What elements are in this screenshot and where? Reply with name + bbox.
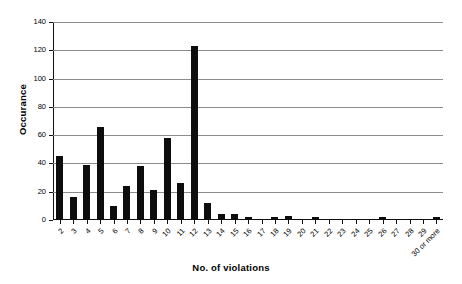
bar [83, 165, 90, 220]
bar-slot [66, 22, 79, 220]
x-tick-label: 11 [175, 227, 186, 238]
x-tick-slot [430, 220, 443, 224]
bar-slot [107, 22, 120, 220]
x-tick-slot [336, 220, 349, 224]
x-tick-mark [410, 220, 411, 224]
bar [150, 190, 157, 220]
x-tick-label: 14 [215, 227, 226, 238]
x-tick-mark [221, 220, 222, 224]
y-tick-label: 20 [6, 188, 46, 196]
bar [110, 206, 117, 220]
x-tick-mark [356, 220, 357, 224]
x-tick-label: 18 [269, 227, 280, 238]
bar-slot [430, 22, 443, 220]
x-tick-slot [255, 220, 268, 224]
x-tick-slot [282, 220, 295, 224]
bar [191, 46, 198, 220]
x-tick-slot [201, 220, 214, 224]
x-tick-mark [154, 220, 155, 224]
bar-slot [201, 22, 214, 220]
x-tick-label: 9 [151, 227, 159, 235]
x-tick-label: 7 [124, 227, 132, 235]
x-axis-ticks [53, 220, 443, 224]
x-tick-label: 20 [296, 227, 307, 238]
bar-slot [255, 22, 268, 220]
y-tick-label: 60 [6, 131, 46, 139]
bar-slot [228, 22, 241, 220]
bar-slot [161, 22, 174, 220]
x-tick-slot [228, 220, 241, 224]
x-tick-mark [288, 220, 289, 224]
x-tick-mark [181, 220, 182, 224]
x-tick-slot [80, 220, 93, 224]
bar [56, 156, 63, 220]
x-tick-label: 26 [377, 227, 388, 238]
y-tick-label: 120 [6, 47, 46, 55]
x-tick-mark [114, 220, 115, 224]
bar [177, 183, 184, 220]
x-tick-label: 24 [350, 227, 361, 238]
bar-slot [147, 22, 160, 220]
bar [97, 127, 104, 220]
x-tick-mark [140, 220, 141, 224]
x-tick-mark [127, 220, 128, 224]
bar-slot [241, 22, 254, 220]
x-tick-label: 15 [229, 227, 240, 238]
x-tick-slot [241, 220, 254, 224]
x-tick-mark [302, 220, 303, 224]
x-tick-label: 25 [363, 227, 374, 238]
x-tick-slot [309, 220, 322, 224]
bar-slot [403, 22, 416, 220]
x-tick-label: 23 [336, 227, 347, 238]
x-tick-slot [174, 220, 187, 224]
x-tick-label: 27 [390, 227, 401, 238]
plot-area: 020406080100120140 234567891011121314151… [53, 22, 443, 220]
x-tick-slot [134, 220, 147, 224]
bar-slot [120, 22, 133, 220]
bar-slot [322, 22, 335, 220]
x-tick-mark [248, 220, 249, 224]
bar-series [53, 22, 443, 220]
x-tick-label: 5 [97, 227, 105, 235]
bar-slot [134, 22, 147, 220]
x-tick-label: 8 [137, 227, 145, 235]
bar [164, 138, 171, 220]
x-tick-mark [87, 220, 88, 224]
y-tick-label: 40 [6, 160, 46, 168]
x-tick-slot [107, 220, 120, 224]
x-tick-mark [315, 220, 316, 224]
x-tick-slot [416, 220, 429, 224]
x-tick-slot [188, 220, 201, 224]
y-tick-label: 80 [6, 103, 46, 111]
x-tick-label: 12 [188, 227, 199, 238]
x-tick-slot [403, 220, 416, 224]
x-tick-label: 10 [161, 227, 172, 238]
x-tick-mark [73, 220, 74, 224]
bar-slot [80, 22, 93, 220]
bar [204, 203, 211, 220]
x-tick-label: 16 [242, 227, 253, 238]
x-tick-slot [389, 220, 402, 224]
x-tick-slot [295, 220, 308, 224]
x-tick-slot [214, 220, 227, 224]
x-tick-slot [161, 220, 174, 224]
x-tick-mark [396, 220, 397, 224]
bar-slot [389, 22, 402, 220]
bar-chart: Occurance 020406080100120140 23456789101… [0, 0, 462, 284]
x-tick-slot [53, 220, 66, 224]
x-tick-slot [362, 220, 375, 224]
x-tick-label: 17 [256, 227, 267, 238]
x-tick-mark [436, 220, 437, 224]
x-tick-mark [100, 220, 101, 224]
x-tick-mark [60, 220, 61, 224]
bar-slot [93, 22, 106, 220]
x-tick-mark [423, 220, 424, 224]
x-tick-slot [268, 220, 281, 224]
x-tick-label: 28 [404, 227, 415, 238]
bar-slot [53, 22, 66, 220]
x-tick-slot [349, 220, 362, 224]
bar [70, 197, 77, 220]
x-axis-title: No. of violations [0, 262, 462, 273]
y-tick-label: 100 [6, 75, 46, 83]
bar-slot [214, 22, 227, 220]
